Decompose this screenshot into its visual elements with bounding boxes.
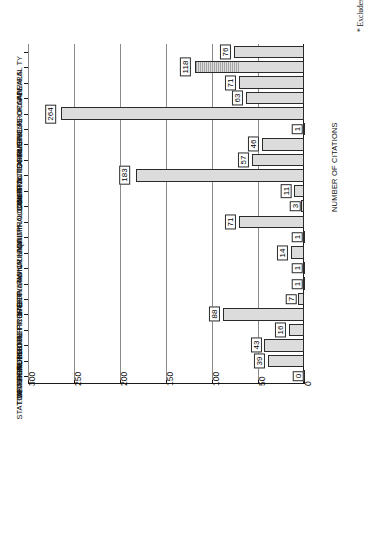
bar-group: 264 [28,107,304,119]
value-tick-label: 150 [166,372,175,386]
bar-value-label: 7 [286,294,297,304]
bar-group: 118 [28,61,304,73]
bar-value-label: 1 [291,278,302,288]
bar [223,308,304,320]
category-axis: ADMIRAL TYAPPEALSBUSINESS ORGAN.CIVIL PR… [0,44,28,384]
bar-group: 1 [28,231,304,243]
bar [303,262,305,274]
bar [298,293,304,305]
bar-value-label: 76 [220,44,231,59]
bar [61,107,304,119]
bar-group: 1 [28,262,304,274]
value-axis: 050100150200250300 [28,384,304,444]
bar [252,154,304,166]
bar-value-label: 71 [225,75,236,90]
plot-area: 7611871632641465718311371114117881643390 [28,44,304,384]
bar [294,185,304,197]
bar-value-label: 71 [225,214,236,229]
bar-group: 7 [28,293,304,305]
bar-group: 1 [28,123,304,135]
bar [239,216,304,228]
bar [136,169,304,181]
bar [262,138,304,150]
value-tick-label: 300 [28,372,37,386]
bar-group: 43 [28,339,304,351]
bar-value-label: 14 [277,245,288,260]
bar-group: 11 [28,185,304,197]
bar-value-label: 3 [290,201,301,211]
bar-value-label: 16 [275,322,286,337]
bar [239,76,304,88]
bar [303,277,305,289]
bar-value-label: 63 [232,91,243,106]
bar [301,200,304,212]
bar-value-label: 46 [248,137,259,152]
bar-value-label: 1 [291,263,302,273]
bar-value-label: 88 [209,307,220,322]
bar-group: 39 [28,355,304,367]
bar-group: 183 [28,169,304,181]
value-tick-label: 100 [212,372,221,386]
bar-value-label: 1 [291,232,302,242]
bar [234,46,304,58]
bar [303,231,305,243]
bar-group: 3 [28,200,304,212]
bar [264,339,304,351]
bar [289,324,304,336]
value-axis-title: NUMBER OF CITATIONS [330,122,339,212]
bar-value-label: 1 [291,124,302,134]
chart-footnote: * Excludes 788 misc. cases [356,0,365,32]
bar-group: 71 [28,76,304,88]
value-tick-label: 200 [120,372,129,386]
bar-value-label: 43 [251,338,262,353]
bar-group: 57 [28,154,304,166]
bar [195,61,304,73]
bar-value-label: 183 [119,166,130,185]
bar-group: 76 [28,46,304,58]
bar-group: 1 [28,277,304,289]
bar-group: 71 [28,216,304,228]
bar-value-label: 118 [180,58,191,77]
category-label-text: TORTS [16,380,24,405]
bar-series: 7611871632641465718311371114117881643390 [28,44,304,384]
bar-group: 16 [28,324,304,336]
value-tick-label: 250 [74,372,83,386]
value-tick-label: 50 [258,377,267,386]
bar-value-label: 0 [292,371,303,381]
bar-group: 46 [28,138,304,150]
value-tick-label: 0 [304,381,313,386]
bar [268,355,304,367]
bar [291,246,304,258]
bar [303,123,305,135]
bar-group: 14 [28,246,304,258]
bar [246,92,304,104]
bar-value-label: 39 [254,353,265,368]
bar-value-label: 57 [238,152,249,167]
bar-value-label: 264 [45,104,56,123]
citations-bar-chart: ADMIRAL TYAPPEALSBUSINESS ORGAN.CIVIL PR… [0,0,365,559]
bar-group: 63 [28,92,304,104]
bar-group: 88 [28,308,304,320]
bar-value-label: 11 [280,184,291,198]
